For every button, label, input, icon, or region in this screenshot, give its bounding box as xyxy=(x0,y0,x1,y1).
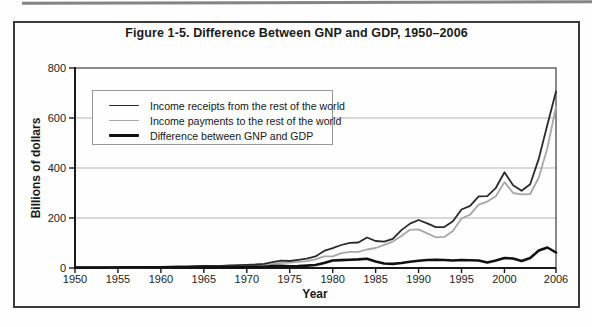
y-tick-label: 200 xyxy=(30,212,66,225)
x-tick-label: 2006 xyxy=(544,273,568,285)
x-tick-label: 1965 xyxy=(192,273,216,285)
figure-page: Figure 1-5. Difference Between GNP and G… xyxy=(0,0,592,327)
x-tick-label: 1955 xyxy=(106,273,130,285)
legend: Income receipts from the rest of the wor… xyxy=(92,90,333,145)
y-tick-label: 400 xyxy=(30,162,66,175)
x-tick-label: 1970 xyxy=(235,273,259,285)
difference-line-swatch-icon xyxy=(109,134,139,137)
legend-item-difference: Difference between GNP and GDP xyxy=(109,128,332,143)
legend-label-receipts: Income receipts from the rest of the wor… xyxy=(150,100,345,112)
y-tick-label: 800 xyxy=(30,62,66,75)
x-tick-label: 2000 xyxy=(492,273,516,285)
payments-line-swatch-icon xyxy=(109,120,139,122)
legend-label-payments: Income payments to the rest of the world xyxy=(150,115,341,127)
x-tick-label: 1990 xyxy=(406,273,430,285)
y-tick-label: 0 xyxy=(30,262,66,275)
legend-label-difference: Difference between GNP and GDP xyxy=(150,130,313,142)
x-tick-label: 1985 xyxy=(363,273,387,285)
x-tick-label: 1960 xyxy=(149,273,173,285)
legend-item-payments: Income payments to the rest of the world xyxy=(109,113,332,128)
y-tick-label: 600 xyxy=(30,112,66,125)
x-axis-title: Year xyxy=(302,287,327,301)
x-tick-label: 1950 xyxy=(63,273,87,285)
x-tick-label: 1975 xyxy=(277,273,301,285)
difference-line xyxy=(75,248,556,268)
receipts-line-swatch-icon xyxy=(109,105,139,107)
legend-item-receipts: Income receipts from the rest of the wor… xyxy=(109,98,332,113)
x-tick-label: 1980 xyxy=(320,273,344,285)
x-tick-label: 1995 xyxy=(449,273,473,285)
